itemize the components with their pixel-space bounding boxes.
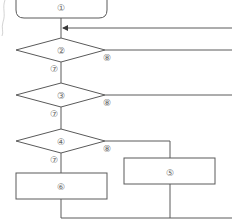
node-label-1: ① — [57, 3, 65, 13]
connector-4-5 — [105, 141, 170, 158]
edge-label-3-no: ⑧ — [103, 98, 111, 108]
edge-label-4-yes: ⑦ — [50, 155, 58, 165]
node-label-5: ⑤ — [166, 168, 174, 178]
edge-label-2-no: ⑧ — [103, 53, 111, 63]
node-label-2: ② — [57, 46, 65, 56]
flowchart: ① ② ③ ④ ⑥ ⑤ ⑧ ⑦ ⑧ ⑦ ⑧ ⑦ — [0, 0, 232, 221]
connector-6-out — [61, 199, 232, 218]
brace-mark — [2, 0, 5, 36]
node-label-6: ⑥ — [57, 182, 65, 192]
edge-label-3-yes: ⑦ — [50, 109, 58, 119]
node-label-3: ③ — [57, 91, 65, 101]
edge-label-4-no: ⑧ — [103, 144, 111, 154]
node-label-4: ④ — [57, 137, 65, 147]
edge-label-2-yes: ⑦ — [50, 64, 58, 74]
